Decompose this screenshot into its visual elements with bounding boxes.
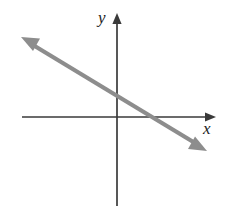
x-axis-label: x: [203, 120, 211, 137]
coordinate-plane-figure: y x: [0, 0, 229, 214]
graph-canvas: [0, 0, 229, 214]
plotted-line: [33, 45, 195, 143]
y-axis-arrowhead: [112, 13, 121, 24]
y-axis-label: y: [98, 9, 106, 26]
